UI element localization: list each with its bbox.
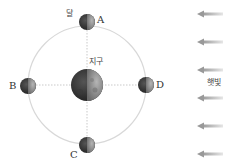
- moon-b: [20, 78, 36, 94]
- arrow-left-icon: [197, 123, 223, 130]
- arrow-left-icon: [197, 67, 223, 74]
- position-c-label: C: [70, 150, 78, 160]
- earth: [71, 69, 103, 101]
- position-d-label: D: [156, 80, 164, 90]
- earth-label: 지구: [89, 58, 103, 66]
- arrow-left-icon: [197, 151, 223, 158]
- arrow-left-icon: [197, 11, 223, 18]
- moon-label: 달: [66, 10, 73, 18]
- moon-phase-diagram: [0, 0, 237, 167]
- arrow-left-icon: [197, 39, 223, 46]
- moon-d: [138, 77, 154, 93]
- arrow-left-icon: [197, 95, 223, 102]
- moon-a: [79, 14, 95, 30]
- position-b-label: B: [9, 81, 16, 91]
- moon-c: [79, 137, 95, 153]
- sunlight-label: 햇빛: [207, 79, 221, 87]
- position-a-label: A: [97, 15, 104, 25]
